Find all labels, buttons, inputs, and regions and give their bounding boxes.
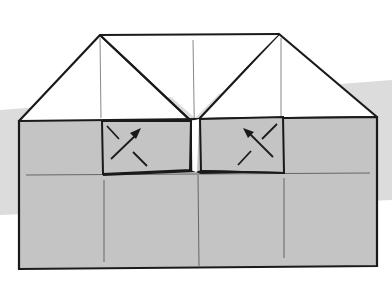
right-flap	[196, 117, 284, 174]
roof-top-edge	[100, 34, 279, 35]
origami-diagram	[0, 0, 392, 291]
left-flap	[102, 121, 196, 176]
